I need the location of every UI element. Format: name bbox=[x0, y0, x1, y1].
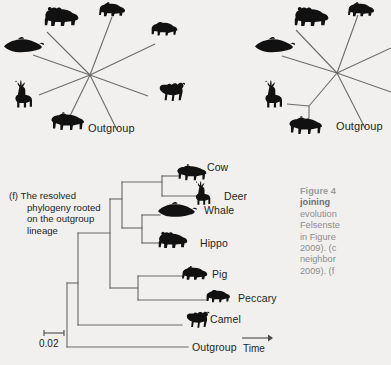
panel-f-caption-line-1: (f) The resolved bbox=[9, 190, 129, 202]
camel-silhouette bbox=[160, 83, 185, 101]
panel-f-caption: (f) The resolved phylogeny rooted on the… bbox=[9, 190, 129, 236]
whale-silhouette bbox=[255, 37, 295, 52]
tip-label-pig: Pig bbox=[212, 268, 227, 280]
camel-silhouette bbox=[187, 312, 209, 328]
star-right-outgroup-label: Outgroup bbox=[336, 120, 383, 132]
panel-f-caption-line-3: on the outgroup bbox=[9, 213, 129, 225]
whale-silhouette bbox=[158, 202, 197, 217]
deer-silhouette bbox=[196, 181, 210, 205]
deer-silhouette bbox=[15, 80, 32, 107]
figure-caption-line-1: Figure 4 bbox=[300, 186, 391, 197]
star-diagram-left bbox=[4, 2, 185, 130]
star-diagram-right bbox=[255, 2, 391, 134]
cow-silhouette bbox=[51, 112, 84, 130]
figure-stage: Outgroup Outgroup (f) The resolved phylo… bbox=[0, 0, 391, 365]
figure-caption-line-5: in Figure bbox=[300, 232, 391, 243]
deer-silhouette bbox=[265, 80, 282, 107]
figure-caption-line-4: Felsenste bbox=[300, 220, 391, 231]
tip-label-outgroup: Outgroup bbox=[192, 341, 237, 353]
star-left-branches bbox=[33, 17, 155, 130]
star-left-silhouettes bbox=[4, 2, 185, 130]
figure-caption-line-3: evolution bbox=[300, 209, 391, 220]
tip-label-deer: Deer bbox=[224, 190, 247, 202]
cow-silhouette bbox=[177, 164, 206, 180]
tip-label-hippo: Hippo bbox=[200, 237, 228, 249]
time-axis-label: Time bbox=[243, 343, 265, 354]
whale-silhouette bbox=[4, 37, 44, 52]
figure-caption-line-7: neighbor bbox=[300, 254, 391, 265]
star-left-outgroup-label: Outgroup bbox=[88, 122, 135, 134]
scale-bar-label: 0.02 bbox=[39, 338, 58, 349]
star-right-branches bbox=[282, 15, 391, 128]
cow-silhouette bbox=[289, 116, 322, 134]
panel-f-caption-line-4: lineage bbox=[9, 225, 129, 237]
pig-silhouette bbox=[99, 2, 125, 16]
figure-caption-line-8: 2009). (f bbox=[300, 266, 391, 277]
tip-label-cow: Cow bbox=[207, 161, 228, 173]
figure-caption-line-6: 2009). (c bbox=[300, 243, 391, 254]
peccary-silhouette bbox=[152, 22, 178, 35]
panel-f-caption-line-2: phylogeny rooted bbox=[9, 202, 129, 214]
star-right-silhouettes bbox=[255, 2, 374, 134]
peccary-silhouette bbox=[207, 290, 230, 302]
pig-silhouette bbox=[348, 2, 374, 16]
figure-caption-block: Figure 4 joining evolution Felsenste in … bbox=[300, 186, 391, 306]
time-arrow-icon bbox=[242, 335, 273, 342]
hippo-silhouette bbox=[295, 7, 329, 26]
tip-label-camel: Camel bbox=[210, 313, 241, 325]
hippo-silhouette bbox=[159, 232, 188, 248]
tip-label-whale: Whale bbox=[204, 204, 234, 216]
scale-bar bbox=[44, 330, 64, 336]
hippo-silhouette bbox=[45, 7, 79, 26]
figure-svg bbox=[0, 0, 391, 365]
figure-caption-line-2: joining bbox=[300, 197, 391, 208]
pig-silhouette bbox=[182, 266, 207, 280]
tip-label-peccary: Peccary bbox=[238, 292, 277, 304]
